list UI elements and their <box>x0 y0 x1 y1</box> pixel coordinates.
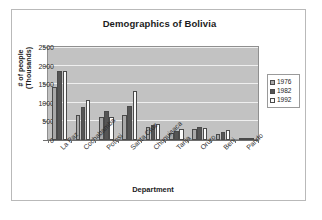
y-axis-tick-mark <box>43 140 47 141</box>
bar[interactable] <box>192 129 197 140</box>
y-axis-tick-mark <box>43 66 47 67</box>
y-axis-tick-mark <box>43 47 47 48</box>
bar[interactable] <box>52 87 57 140</box>
y-axis-tick-mark <box>43 84 47 85</box>
chart-legend: 197619821992 <box>267 74 300 108</box>
bar[interactable] <box>57 71 62 140</box>
bar-group <box>211 47 234 140</box>
bar-group <box>235 47 258 140</box>
x-axis-title: Department <box>47 185 259 194</box>
bar-group <box>188 47 211 140</box>
x-axis-tick-mark <box>141 140 142 143</box>
bar[interactable] <box>244 138 249 140</box>
x-axis-tick-mark <box>95 140 96 143</box>
legend-label: 1982 <box>277 87 291 95</box>
chart-frame: Demographics of Bolivia 0500100015002000… <box>11 9 306 201</box>
legend-label: 1992 <box>277 96 291 104</box>
bar[interactable] <box>86 100 91 140</box>
legend-swatch-icon <box>270 98 275 103</box>
x-axis-tick-mark <box>165 140 166 143</box>
legend-swatch-icon <box>270 80 275 85</box>
bar-group <box>71 47 94 140</box>
x-axis-tick-mark <box>48 140 49 143</box>
bar[interactable] <box>197 127 202 140</box>
x-axis-tick-mark <box>188 140 189 143</box>
x-axis-tick-mark <box>71 140 72 143</box>
x-axis-tick-mark <box>235 140 236 143</box>
y-axis-title: # of people (Thousands) <box>17 25 33 111</box>
y-axis-tick-mark <box>43 121 47 122</box>
legend-item[interactable]: 1992 <box>270 96 297 104</box>
bar[interactable] <box>221 132 226 140</box>
y-axis-title-line2: (Thousands) <box>25 25 33 111</box>
bar[interactable] <box>81 107 86 140</box>
bar[interactable] <box>133 91 138 140</box>
bar[interactable] <box>63 71 68 140</box>
legend-item[interactable]: 1976 <box>270 78 297 86</box>
bar-group <box>118 47 141 140</box>
bar[interactable] <box>239 138 244 140</box>
bar-group <box>48 47 71 140</box>
chart-title: Demographics of Bolivia <box>12 18 307 29</box>
x-axis-tick-mark <box>258 140 259 143</box>
legend-swatch-icon <box>270 89 275 94</box>
x-axis-tick-mark <box>211 140 212 143</box>
y-axis-tick-mark <box>43 103 47 104</box>
x-axis-tick-mark <box>118 140 119 143</box>
legend-item[interactable]: 1982 <box>270 87 297 95</box>
legend-label: 1976 <box>277 78 291 86</box>
bar[interactable] <box>127 106 132 140</box>
y-axis-title-line1: # of people <box>17 25 25 111</box>
